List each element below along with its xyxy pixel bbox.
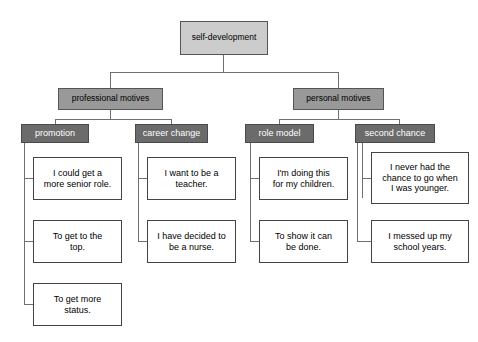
- node-category-label: professional motives: [72, 94, 149, 104]
- connector-career-change-leaf-1: [138, 178, 147, 179]
- leaf-line: teacher.: [164, 179, 218, 189]
- leaf-line: I could get a: [44, 168, 112, 178]
- connector-personal-stem: [338, 110, 339, 119]
- node-subcategory-role-model[interactable]: role model: [245, 124, 314, 143]
- connector-promotion-leaf-2: [24, 241, 33, 242]
- leaf-line: more senior role.: [44, 179, 112, 189]
- node-category-professional-motives[interactable]: professional motives: [58, 88, 163, 110]
- leaf-line: To show it can: [275, 231, 332, 241]
- leaf-line: I never had the: [382, 162, 458, 172]
- node-category-label: personal motives: [306, 94, 370, 104]
- connector-root-stem: [223, 55, 224, 72]
- node-subcategory-promotion[interactable]: promotion: [21, 124, 89, 143]
- node-subcategory-label: role model: [258, 128, 300, 138]
- leaf-promotion-1[interactable]: I could get a more senior role.: [33, 157, 122, 200]
- leaf-line: To get more: [54, 294, 102, 304]
- node-subcategory-label: promotion: [35, 128, 75, 138]
- leaf-line: be a nurse.: [157, 242, 226, 252]
- connector-professional-bus: [55, 119, 172, 120]
- leaf-line: for my children.: [273, 179, 335, 189]
- leaf-career-change-2[interactable]: I have decided to be a nurse.: [147, 220, 236, 263]
- node-root-self-development[interactable]: self-development: [180, 21, 268, 55]
- connector-to-professional: [110, 72, 111, 88]
- connector-to-personal: [338, 72, 339, 88]
- connector-second-chance-leaf-2: [357, 241, 371, 242]
- leaf-career-change-1[interactable]: I want to be a teacher.: [147, 157, 236, 200]
- leaf-line: I'm doing this: [273, 168, 335, 178]
- connector-career-change-spine: [138, 143, 139, 241]
- leaf-second-chance-2[interactable]: I messed up my school years.: [371, 220, 469, 263]
- diagram-canvas: self-development professional motives pe…: [0, 0, 478, 342]
- node-category-personal-motives[interactable]: personal motives: [293, 88, 384, 110]
- leaf-line: I was younger.: [382, 183, 458, 193]
- node-root-label: self-development: [192, 33, 257, 43]
- leaf-line: I messed up my: [388, 231, 452, 241]
- connector-role-model-leaf-1: [250, 178, 259, 179]
- connector-second-chance-spine-outer: [357, 143, 358, 241]
- connector-level1-bus: [110, 72, 339, 73]
- leaf-line: I have decided to: [157, 231, 226, 241]
- leaf-promotion-2[interactable]: To get to the top.: [33, 220, 122, 263]
- leaf-line: top.: [53, 242, 103, 252]
- leaf-line: school years.: [388, 242, 452, 252]
- connector-second-chance-spine-inner: [362, 143, 363, 198]
- leaf-line: be done.: [275, 242, 332, 252]
- leaf-promotion-3[interactable]: To get more status.: [33, 283, 122, 326]
- connector-promotion-leaf-1: [24, 178, 33, 179]
- connector-professional-stem: [110, 110, 111, 119]
- leaf-role-model-2[interactable]: To show it can be done.: [259, 220, 348, 263]
- node-subcategory-career-change[interactable]: career change: [135, 124, 208, 143]
- leaf-line: chance to go when: [382, 173, 458, 183]
- leaf-line: To get to the: [53, 231, 103, 241]
- connector-promotion-leaf-3: [24, 304, 33, 305]
- connector-role-model-spine: [250, 143, 251, 241]
- leaf-second-chance-1[interactable]: I never had the chance to go when I was …: [371, 152, 469, 204]
- connector-career-change-leaf-2: [138, 241, 147, 242]
- node-subcategory-label: second chance: [365, 128, 426, 138]
- connector-role-model-leaf-2: [250, 241, 259, 242]
- node-subcategory-label: career change: [143, 128, 201, 138]
- leaf-line: I want to be a: [164, 168, 218, 178]
- connector-second-chance-leaf-1: [362, 178, 371, 179]
- leaf-line: status.: [54, 305, 102, 315]
- leaf-role-model-1[interactable]: I'm doing this for my children.: [259, 157, 348, 200]
- connector-promotion-spine: [24, 143, 25, 304]
- connector-personal-bus: [279, 119, 399, 120]
- node-subcategory-second-chance[interactable]: second chance: [355, 124, 435, 143]
